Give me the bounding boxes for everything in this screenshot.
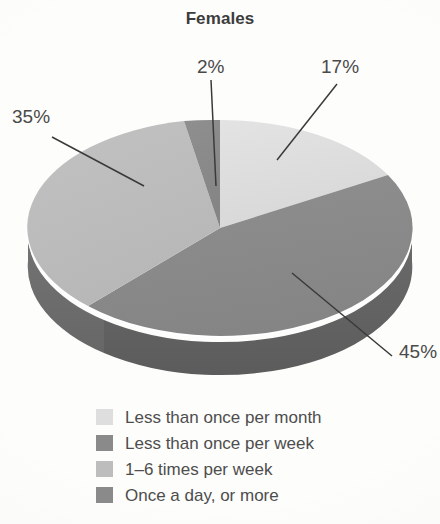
legend-item-once-a-day-or-more: Once a day, or more [96,482,426,508]
data-label-2-percent: 2% [197,56,224,78]
chart-page: Females [0,0,440,524]
legend-item-label: Once a day, or more [125,487,279,504]
legend-item-label: 1–6 times per week [125,461,272,478]
legend-swatch-icon [96,461,113,477]
data-label-17-percent: 17% [321,56,359,78]
legend-item-less-than-once-per-week: Less than once per week [96,430,426,456]
data-label-35-percent: 35% [12,106,50,128]
legend-swatch-icon [96,435,113,451]
legend-swatch-icon [96,487,113,503]
legend-swatch-icon [96,409,113,425]
legend-item-label: Less than once per week [125,435,314,452]
chart-legend: Less than once per month Less than once … [96,404,426,508]
pie-chart-figure: 2% 17% 35% 45% [0,0,440,400]
legend-item-1-6-times-per-week: 1–6 times per week [96,456,426,482]
legend-item-label: Less than once per month [125,409,322,426]
legend-item-less-than-once-per-month: Less than once per month [96,404,426,430]
pie-top-surface [27,120,412,336]
data-label-45-percent: 45% [399,341,437,363]
